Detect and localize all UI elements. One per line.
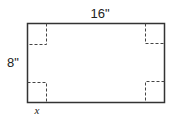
cutout-top-left	[28, 24, 47, 45]
width-label: 16"	[90, 6, 109, 21]
outer-rectangle	[28, 24, 165, 103]
cutout-bottom-right	[146, 82, 165, 103]
cutout-side-label: x	[34, 104, 40, 116]
rectangle-diagram: 16" 8" x	[0, 0, 177, 120]
cutout-top-right	[146, 24, 165, 44]
cutout-bottom-left	[28, 83, 47, 103]
height-label: 8"	[7, 55, 19, 70]
